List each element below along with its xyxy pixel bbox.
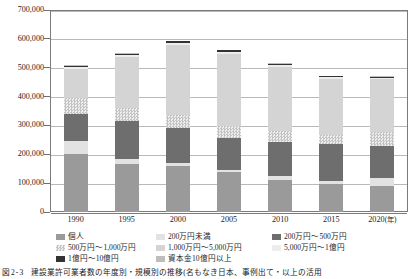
y-axis-tick-label: 100,000 xyxy=(0,179,44,187)
bar-segment xyxy=(166,166,190,212)
stacked-bar[interactable] xyxy=(115,53,139,212)
gridline xyxy=(51,213,407,214)
legend-swatch xyxy=(56,256,65,262)
legend-item[interactable]: 200万円～500万円 xyxy=(272,231,408,242)
legend-swatch xyxy=(156,256,165,262)
legend-label: 5,000万円～1億円 xyxy=(284,242,345,253)
stacked-bar[interactable] xyxy=(217,50,241,212)
x-axis-tick-label: 2010 xyxy=(272,215,288,224)
x-axis-tick-label: 2000 xyxy=(170,215,186,224)
legend-item[interactable]: 200万円未満 xyxy=(156,231,268,242)
bar-segment xyxy=(64,69,88,98)
y-axis-tick-label: 0 xyxy=(0,208,44,216)
legend-label: 個人 xyxy=(68,231,84,242)
x-axis-tick-label: 1990 xyxy=(67,215,83,224)
stacked-bar[interactable] xyxy=(166,41,190,212)
legend-swatch xyxy=(272,245,281,251)
chart-figure: 0100,000200,000300,000400,000500,000600,… xyxy=(0,0,416,279)
bar-segment xyxy=(166,115,190,128)
bar-segment xyxy=(64,154,88,212)
bar-group xyxy=(115,53,139,212)
bar-segment xyxy=(370,132,394,146)
bars-layer xyxy=(50,10,408,212)
bar-segment xyxy=(370,186,394,212)
x-axis-tick-label: 2020 xyxy=(368,215,384,224)
legend-swatch xyxy=(272,234,281,240)
bar-group xyxy=(268,63,292,212)
legend-swatch xyxy=(56,245,65,251)
bar-segment xyxy=(166,128,190,163)
bar-segment xyxy=(268,142,292,177)
bar-segment xyxy=(217,172,241,212)
bar-segment xyxy=(115,57,139,108)
bar-segment xyxy=(115,164,139,212)
x-axis-tick-label: 2015 xyxy=(323,215,339,224)
x-axis-label-cell: 2010 xyxy=(252,215,308,224)
figure-caption-text: 建設業許可業者数の年度別・規模別の推移(名もなき日本、事例出て・以上の活用 xyxy=(31,268,322,277)
legend-swatch xyxy=(156,245,165,251)
bar-group xyxy=(166,41,190,212)
y-axis-tick-label: 200,000 xyxy=(0,150,44,158)
bar-segment xyxy=(319,79,343,135)
legend-label: 500万円～1,000万円 xyxy=(68,242,136,253)
x-axis-label-cell: 2000 xyxy=(150,215,206,224)
bar-segment xyxy=(115,121,139,159)
bar-segment xyxy=(64,114,88,141)
bar-segment xyxy=(217,126,241,138)
legend-label: 200万円未満 xyxy=(168,231,211,242)
figure-number: 図2-3 xyxy=(2,268,24,277)
x-axis-unit-label: (年) xyxy=(385,215,397,224)
x-axis-tick-label: 1995 xyxy=(119,215,135,224)
legend-item[interactable]: 資本金10億円以上 xyxy=(156,253,268,264)
bar-segment xyxy=(64,141,88,155)
bar-segment xyxy=(217,54,241,126)
legend-item[interactable]: 1億円～10億円 xyxy=(56,253,152,264)
stacked-bar[interactable] xyxy=(64,65,88,212)
stacked-bar[interactable] xyxy=(319,76,343,212)
bar-segment xyxy=(64,98,88,114)
x-axis-label-cell: 1995 xyxy=(99,215,155,224)
legend-item[interactable]: 500万円～1,000万円 xyxy=(56,242,152,253)
bar-segment xyxy=(115,108,139,121)
bar-segment xyxy=(268,67,292,131)
bar-segment xyxy=(370,79,394,132)
bar-group xyxy=(217,50,241,212)
x-axis-label-cell: 1990 xyxy=(48,215,104,224)
figure-caption: 図2-3建設業許可業者数の年度別・規模別の推移(名もなき日本、事例出て・以上の活… xyxy=(2,268,416,278)
y-axis-tick-label: 700,000 xyxy=(0,6,44,14)
legend-item[interactable]: 1,000万円～5,000万円 xyxy=(156,242,268,253)
legend-label: 1億円～10億円 xyxy=(68,253,119,264)
stacked-bar[interactable] xyxy=(268,63,292,212)
chart-legend: 個人200万円未満200万円～500万円500万円～1,000万円1,000万円… xyxy=(56,231,408,264)
y-axis-tick-label: 600,000 xyxy=(0,35,44,43)
bar-group xyxy=(370,76,394,212)
bar-segment xyxy=(319,184,343,212)
bar-segment xyxy=(370,146,394,178)
legend-label: 1,000万円～5,000万円 xyxy=(168,242,242,253)
y-axis-tick-label: 500,000 xyxy=(0,64,44,72)
legend-item[interactable]: 個人 xyxy=(56,231,152,242)
legend-label: 200万円～500万円 xyxy=(284,231,347,242)
legend-item[interactable]: 5,000万円～1億円 xyxy=(272,242,408,253)
y-axis-tick-label: 400,000 xyxy=(0,93,44,101)
x-axis-label-cell: 2015 xyxy=(303,215,359,224)
stacked-bar[interactable] xyxy=(370,76,394,212)
x-axis-tick-label: 2005 xyxy=(221,215,237,224)
bar-segment xyxy=(268,180,292,212)
bar-group xyxy=(319,76,343,212)
bar-group xyxy=(64,65,88,212)
bar-segment xyxy=(268,131,292,142)
bar-segment xyxy=(370,178,394,185)
legend-swatch xyxy=(56,234,65,240)
y-axis-tick-label: 300,000 xyxy=(0,121,44,129)
bar-segment xyxy=(319,144,343,181)
x-axis-label-cell: 2020(年) xyxy=(354,215,410,224)
bar-segment xyxy=(217,138,241,170)
legend-swatch xyxy=(156,234,165,240)
legend-label: 資本金10億円以上 xyxy=(168,253,232,264)
bar-segment xyxy=(319,135,343,144)
bar-segment xyxy=(166,45,190,116)
x-axis-label-cell: 2005 xyxy=(201,215,257,224)
